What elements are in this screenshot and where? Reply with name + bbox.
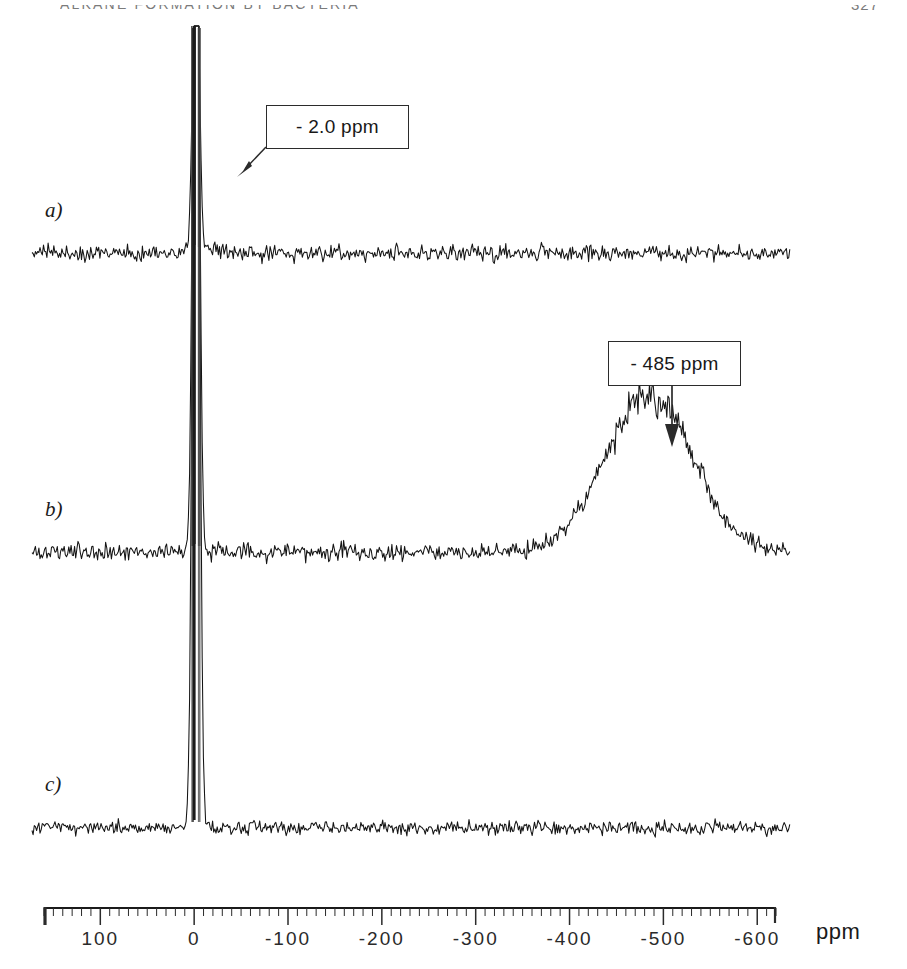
axis-tick-label-neg400: -400 (546, 928, 592, 950)
spectrum-plot-canvas (0, 0, 907, 969)
ppm-axis (44, 907, 776, 925)
axis-tick-label-neg600: -600 (734, 928, 780, 950)
axis-tick-label-neg500: -500 (640, 928, 686, 950)
annotation-box-2ppm: - 2.0 ppm (266, 105, 409, 149)
spectrum-trace-a (32, 26, 790, 264)
spectrum-trace-b (32, 26, 790, 564)
nmr-figure: ALKANE FORMATION BY BACTERIA 327 a) b) c… (0, 0, 907, 969)
annotation-box-485ppm: - 485 ppm (608, 341, 741, 386)
trace-label-b: b) (45, 497, 63, 522)
trace-label-c: c) (45, 772, 61, 797)
trace-label-a: a) (45, 198, 63, 223)
axis-tick-label-100: 100 (81, 928, 119, 950)
axis-tick-label-0: 0 (188, 928, 201, 950)
axis-tick-label-neg200: -200 (359, 928, 405, 950)
axis-tick-label-neg300: -300 (453, 928, 499, 950)
annotation-arrows (237, 147, 679, 447)
axis-tick-label-neg100: -100 (265, 928, 311, 950)
axis-unit-label: ppm (816, 919, 860, 945)
